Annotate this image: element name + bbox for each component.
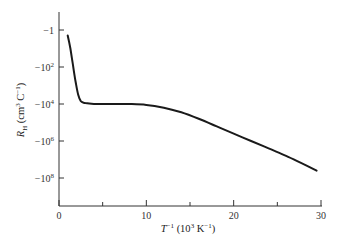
- x-label-unit: (10: [174, 223, 191, 235]
- y-tick-label: −102: [35, 61, 55, 73]
- y-ticks: −1−102−104−106−108: [35, 25, 64, 184]
- x-label-unit: K: [194, 223, 205, 234]
- y-axis-title: RH (cm3 C−1): [14, 82, 29, 138]
- y-tick-label: −104: [35, 98, 55, 110]
- y-label-unit: C: [15, 94, 26, 104]
- y-tick-label: −1: [43, 25, 54, 36]
- x-tick-label: 10: [141, 210, 151, 221]
- x-label-unit: ): [212, 223, 216, 235]
- x-ticks: 0102030: [57, 200, 327, 221]
- x-tick-label: 20: [229, 210, 239, 221]
- y-tick-label: −108: [35, 172, 55, 184]
- y-label-unit: ): [15, 82, 27, 86]
- data-curve: [68, 36, 317, 171]
- x-axis-title: T−1 (103 K−1): [161, 222, 216, 235]
- hall-coefficient-chart: 0102030 −1−102−104−106−108 T−1 (103 K−1)…: [0, 0, 343, 239]
- x-tick-label: 30: [316, 210, 326, 221]
- y-label-unit: (cm: [15, 107, 27, 126]
- x-tick-label: 0: [57, 210, 62, 221]
- y-tick-label: −106: [35, 135, 55, 147]
